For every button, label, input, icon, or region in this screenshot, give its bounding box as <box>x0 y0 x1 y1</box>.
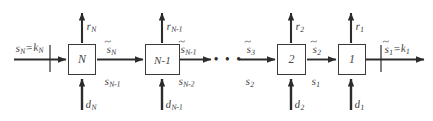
stage-box-N-label: N <box>78 52 86 67</box>
stage-box-2-label: 2 <box>288 52 294 67</box>
label-r-1-subscript: 1 <box>360 25 364 34</box>
label-output-k1-subscript: 1 <box>406 47 410 56</box>
label-d-1-subscript: 1 <box>360 103 364 112</box>
label-stilde-N-subscript: N <box>111 48 117 57</box>
label-d-2: d2 <box>294 98 304 112</box>
label-r-2-subscript: 2 <box>300 25 304 34</box>
label-s-N-minus-1: sN-1 <box>104 75 121 89</box>
label-d-N-minus-1-subscript: N-1 <box>171 102 183 112</box>
label-s-1-subscript: 1 <box>316 80 320 89</box>
label-stilde-N-base: s <box>106 44 111 55</box>
label-stilde-N: sN <box>106 43 116 57</box>
stage-box-N-minus-1[interactable]: N-1 <box>145 44 180 75</box>
label-r-N-minus-1-subscript: N-1 <box>171 24 183 34</box>
label-stilde-2-subscript: 2 <box>317 48 321 57</box>
label-r-N-minus-1: rN-1 <box>166 20 183 34</box>
label-stilde-2: s2 <box>312 44 321 58</box>
label-s-N-minus-2-subscript: N-2 <box>183 79 195 89</box>
label-stilde-N-minus-1-subscript: N-1 <box>185 47 197 57</box>
label-d-N-subscript: N <box>91 103 97 112</box>
label-r-N: rN <box>86 20 96 34</box>
stage-box-1[interactable]: 1 <box>338 44 366 75</box>
stage-box-2[interactable]: 2 <box>277 44 306 75</box>
label-r-1: r1 <box>355 21 364 35</box>
label-s-2: s2 <box>245 76 254 90</box>
label-output-stilde1-equals-k1: s1=k1 <box>384 43 410 58</box>
label-stilde-N-minus-1: sN-1 <box>180 43 197 57</box>
label-stilde-2-base: s <box>312 44 317 55</box>
label-s-N-minus-1-subscript: N-1 <box>109 79 121 89</box>
label-s-2-subscript: 2 <box>250 80 254 89</box>
label-s-1: s1 <box>311 76 320 90</box>
label-r-N-subscript: N <box>91 25 97 34</box>
label-d-2-subscript: 2 <box>300 103 304 112</box>
label-input-sN-equals-kN: sN=kN <box>15 41 43 56</box>
label-s-N-minus-2: sN-2 <box>178 75 195 89</box>
stage-box-N-minus-1-label: N-1 <box>154 54 171 66</box>
label-stilde-3-subscript: 3 <box>251 48 255 57</box>
label-d-1: d1 <box>354 98 364 112</box>
block-diagram-figure: N N-1 2 1 • • • rN rN-1 r2 r1 dN dN-1 d2… <box>0 0 433 121</box>
label-d-N: dN <box>85 98 96 112</box>
ellipsis-continuation: • • • <box>214 53 243 65</box>
label-r-2: r2 <box>295 21 304 35</box>
label-input-kN-subscript: N <box>38 46 44 55</box>
label-stilde-N-minus-1-base: s <box>180 44 185 55</box>
stage-box-N[interactable]: N <box>68 44 96 75</box>
label-stilde-3: s3 <box>246 44 255 58</box>
stage-box-1-label: 1 <box>349 52 355 67</box>
label-output-stilde1-base: s <box>384 44 389 55</box>
label-stilde-3-base: s <box>246 44 251 55</box>
label-d-N-minus-1: dN-1 <box>165 98 183 112</box>
